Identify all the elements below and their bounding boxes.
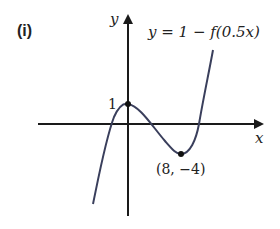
- max-point: [125, 101, 131, 107]
- x-axis-label: x: [255, 129, 263, 147]
- min-point-label: (8, −4): [156, 161, 205, 177]
- curve: [93, 50, 213, 204]
- y-axis-label: y: [110, 10, 118, 28]
- min-point: [178, 151, 184, 157]
- y-intercept-label: 1: [108, 96, 117, 112]
- equation-label: y = 1 − f(0.5x): [148, 23, 260, 41]
